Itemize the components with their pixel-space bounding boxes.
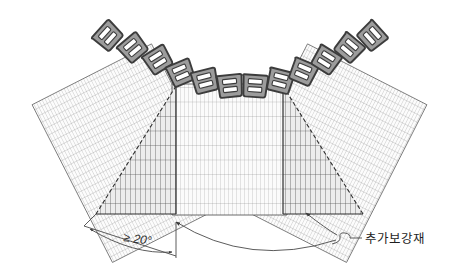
- reinforcement-label: 추가보강재: [365, 232, 425, 246]
- reinforcement-diagram: ≥ 20° 추가보강재: [0, 0, 459, 277]
- block-body: [242, 74, 269, 98]
- block-slot-lower: [248, 87, 262, 93]
- facing-block: [242, 74, 269, 98]
- facing-block: [216, 74, 243, 99]
- block-slot-upper: [248, 79, 262, 85]
- diagram-canvas: ≥ 20° 추가보강재: [0, 0, 459, 277]
- center-panel: [172, 84, 287, 215]
- block-slot-lower: [223, 86, 237, 92]
- block-slot-upper: [222, 78, 236, 84]
- center-panel-mesh: [172, 84, 287, 215]
- block-body: [216, 74, 243, 99]
